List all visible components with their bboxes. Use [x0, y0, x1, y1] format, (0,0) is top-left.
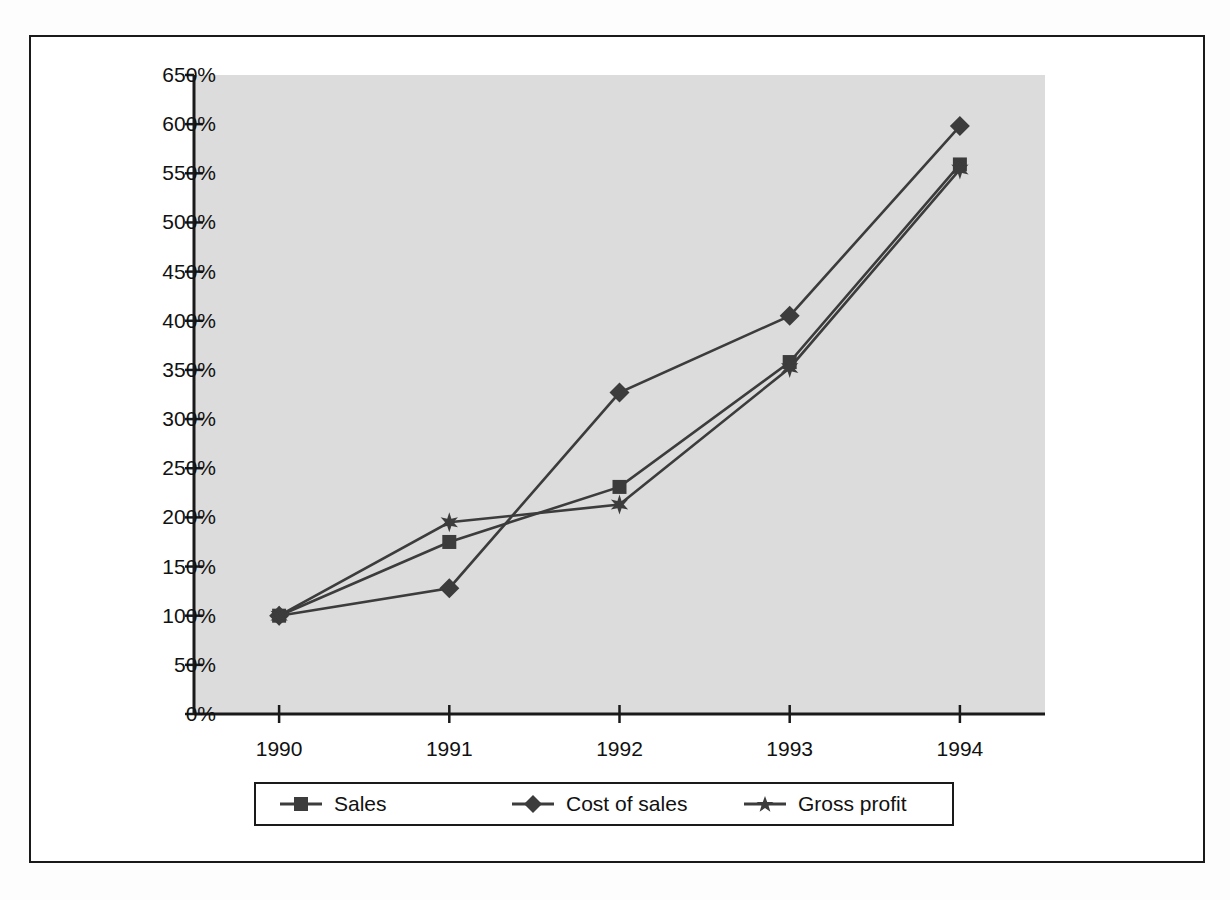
page-root: 0%50%100%150%200%250%300%350%400%450%500…	[0, 0, 1230, 900]
square-marker-icon	[280, 795, 322, 813]
x-axis-tick-label: 1991	[426, 738, 473, 759]
x-axis-tick-label: 1993	[766, 738, 813, 759]
x-axis-tick-label: 1992	[596, 738, 643, 759]
legend-label-cost-of-sales: Cost of sales	[566, 792, 687, 816]
chart-area: 0%50%100%150%200%250%300%350%400%450%500…	[31, 37, 1203, 861]
legend-entry-cost-of-sales[interactable]: Cost of sales	[488, 792, 720, 816]
legend-entry-gross-profit[interactable]: Gross profit	[720, 792, 952, 816]
legend-label-sales: Sales	[334, 792, 387, 816]
legend-entry-sales[interactable]: Sales	[256, 792, 488, 816]
chart-legend: Sales Cost of sales Gross profit	[254, 782, 954, 826]
diamond-marker-icon	[512, 795, 554, 813]
x-axis-tick-label: 1990	[256, 738, 303, 759]
x-axis-tick-label: 1994	[937, 738, 984, 759]
x-axis-tick-labels: 19901991199219931994	[31, 37, 1203, 865]
legend-label-gross-profit: Gross profit	[798, 792, 907, 816]
chart-figure-frame: 0%50%100%150%200%250%300%350%400%450%500…	[29, 35, 1205, 863]
star-marker-icon	[744, 795, 786, 813]
